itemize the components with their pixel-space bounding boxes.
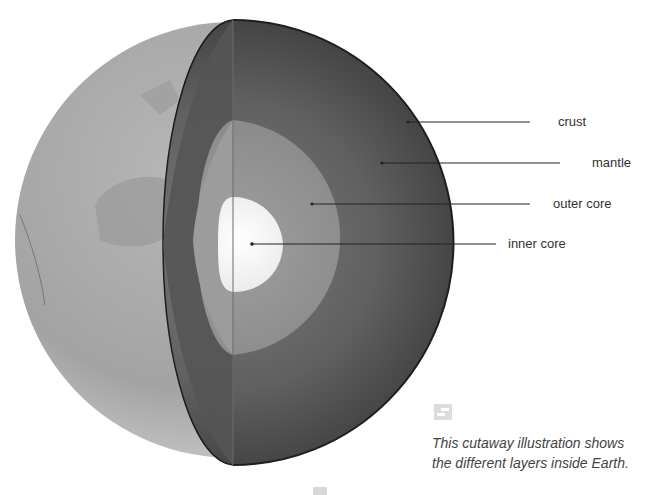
figure-caption: This cutaway illustration shows the diff… bbox=[432, 433, 629, 473]
caption-line-1: This cutaway illustration shows bbox=[432, 433, 629, 453]
label-crust: crust bbox=[558, 114, 586, 130]
label-outer-core: outer core bbox=[553, 196, 612, 212]
label-inner-core: inner core bbox=[508, 236, 566, 252]
page-marker bbox=[313, 487, 327, 495]
label-mantle: mantle bbox=[592, 155, 631, 171]
caption-line-2: the different layers inside Earth. bbox=[432, 453, 629, 473]
earth-layers-diagram: crust mantle outer core inner core This … bbox=[0, 0, 653, 495]
expand-icon[interactable] bbox=[434, 404, 452, 420]
